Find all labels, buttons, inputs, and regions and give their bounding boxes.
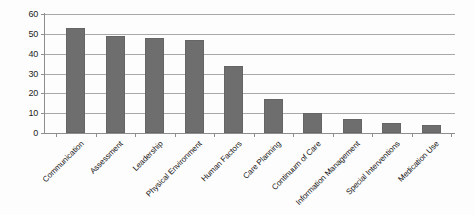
x-axis-tickmark [254,133,255,137]
x-axis-category-label: Medication Use [397,140,441,184]
y-axis-tick-labels: 0102030405060 [0,14,40,133]
x-axis-tickmark [333,133,334,137]
x-axis-tickmark [56,133,57,137]
bar [422,125,441,133]
bar [185,40,204,133]
x-axis-tickmark [451,133,452,137]
y-axis-tickmark [41,54,45,55]
bar [303,113,322,133]
x-axis-tickmark [135,133,136,137]
gridline [44,34,455,35]
y-axis-tickmark [41,14,45,15]
y-axis-tick-label: 20 [0,89,38,98]
x-axis-category-label: Communication [41,140,85,184]
x-axis-tickmark [372,133,373,137]
y-axis-tickmark [41,133,45,134]
x-axis-tickmark [293,133,294,137]
y-axis-tick-label: 10 [0,109,38,118]
bar [66,28,85,133]
y-axis-tick-label: 50 [0,30,38,39]
x-axis-tickmark [412,133,413,137]
bar [224,66,243,133]
x-axis-category-label: Leadership [131,140,164,173]
y-axis-tickmark [41,93,45,94]
y-axis-tickmark [41,113,45,114]
plot-area [44,14,455,133]
bar [382,123,401,133]
gridline [44,133,455,134]
bar [264,99,283,133]
y-axis-tickmark [41,74,45,75]
y-axis-tick-label: 60 [0,10,38,19]
bar [106,36,125,133]
y-axis-tick-label: 0 [0,129,38,138]
x-axis-tickmark [214,133,215,137]
y-axis-tick-label: 40 [0,50,38,59]
x-axis-category-label: Care Planning [242,140,283,181]
x-axis-tickmark [175,133,176,137]
bar [145,38,164,133]
x-axis-category-label: Human Factors [200,140,243,183]
bar [343,119,362,133]
y-axis-tick-label: 30 [0,70,38,79]
y-axis-tickmark [41,34,45,35]
gridline [44,14,455,15]
x-axis-tickmark [96,133,97,137]
x-axis-category-label: Assessment [89,140,125,176]
bar-chart: 0102030405060 CommunicationAssessmentLea… [0,0,475,215]
